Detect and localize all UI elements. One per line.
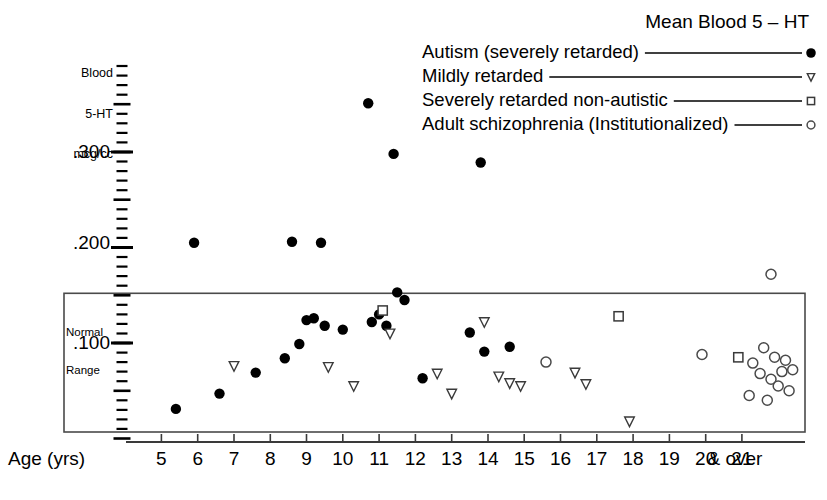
data-point	[697, 350, 707, 360]
legend-markers-group	[549, 48, 815, 129]
data-point	[378, 306, 387, 315]
data-point	[316, 238, 326, 248]
data-point	[777, 367, 787, 377]
data-point	[505, 379, 515, 389]
data-point	[229, 362, 239, 372]
data-point	[294, 339, 304, 349]
data-point	[494, 372, 504, 382]
data-point	[770, 352, 780, 362]
data-point	[392, 287, 402, 297]
data-point	[320, 321, 330, 331]
legend-marker	[806, 48, 816, 58]
plot-canvas	[0, 0, 827, 500]
data-point	[388, 149, 398, 159]
legend-marker	[807, 97, 814, 104]
data-point	[541, 357, 551, 367]
data-point	[465, 327, 475, 337]
legend-marker	[807, 121, 815, 129]
data-point	[744, 391, 754, 401]
data-point	[755, 369, 765, 379]
data-points-group	[171, 98, 798, 427]
data-point	[324, 363, 334, 373]
data-point	[363, 98, 373, 108]
data-point	[781, 355, 791, 365]
data-point	[784, 386, 794, 396]
data-point	[280, 353, 290, 363]
data-point	[625, 417, 635, 427]
data-point	[367, 317, 377, 327]
data-point	[251, 367, 261, 377]
series-1	[229, 318, 634, 427]
data-point	[570, 368, 580, 378]
data-point	[171, 404, 181, 414]
series-3	[541, 269, 798, 405]
data-point	[385, 329, 395, 339]
data-point	[417, 373, 427, 383]
data-point	[505, 342, 515, 352]
data-point	[516, 382, 526, 392]
chart-figure: Blood 5-HT mcg/cc .300 .200 .100 Normal …	[0, 0, 827, 500]
data-point	[309, 313, 319, 323]
data-point	[762, 395, 772, 405]
data-point	[759, 343, 769, 353]
data-point	[480, 318, 490, 328]
axis-group	[111, 66, 805, 442]
data-point	[581, 380, 591, 390]
data-point	[287, 237, 297, 247]
legend-marker	[807, 74, 814, 82]
data-point	[734, 353, 743, 362]
data-point	[349, 382, 359, 392]
data-point	[788, 365, 798, 375]
data-point	[338, 324, 348, 334]
data-point	[399, 295, 409, 305]
series-2	[378, 306, 743, 362]
data-point	[214, 388, 224, 398]
data-point	[766, 269, 776, 279]
data-point	[479, 346, 489, 356]
data-point	[432, 369, 442, 379]
data-point	[773, 381, 783, 391]
data-point	[476, 157, 486, 167]
series-0	[171, 98, 515, 414]
data-point	[189, 238, 199, 248]
data-point	[614, 312, 623, 321]
data-point	[748, 358, 758, 368]
data-point	[447, 389, 457, 399]
